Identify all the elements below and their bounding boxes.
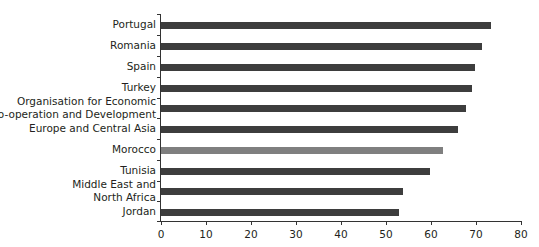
category-label-spain: Spain xyxy=(127,60,156,73)
y-tick xyxy=(157,14,161,15)
category-label-oecd-line2: Co-operation and Development xyxy=(0,108,156,121)
category-label-europe-central-asia: Europe and Central Asia xyxy=(29,122,156,135)
bar-organisation-for-economic-co-operation-and-development xyxy=(161,105,466,112)
x-tick xyxy=(521,221,522,225)
bar-jordan xyxy=(161,209,399,216)
category-label-tunisia: Tunisia xyxy=(120,164,156,177)
y-tick xyxy=(157,201,161,202)
x-tick xyxy=(386,221,387,225)
x-tick xyxy=(341,221,342,225)
x-tick xyxy=(296,221,297,225)
category-label-turkey: Turkey xyxy=(122,81,156,94)
x-tick xyxy=(431,221,432,225)
y-tick xyxy=(157,35,161,36)
x-tick xyxy=(476,221,477,225)
category-label-portugal: Portugal xyxy=(113,18,157,31)
y-tick xyxy=(157,139,161,140)
bar-europe-and-central-asia xyxy=(161,126,458,133)
bar-romania xyxy=(161,43,482,50)
x-tick xyxy=(161,221,162,225)
x-tick-label-40: 40 xyxy=(326,228,356,240)
y-tick xyxy=(157,181,161,182)
bar-middle-east-and-north-africa xyxy=(161,188,403,195)
x-tick-label-80: 80 xyxy=(506,228,536,240)
x-tick-label-30: 30 xyxy=(281,228,311,240)
category-label-mena-line1: Middle East and xyxy=(72,178,156,191)
horizontal-bar-chart: Portugal Romania Spain Turkey Organisati… xyxy=(0,0,539,247)
x-tick xyxy=(251,221,252,225)
bar-morocco xyxy=(161,147,443,154)
x-tick-label-70: 70 xyxy=(461,228,491,240)
category-label-oecd-line1: Organisation for Economic xyxy=(17,95,156,108)
x-tick-label-10: 10 xyxy=(191,228,221,240)
x-tick xyxy=(206,221,207,225)
category-label-jordan: Jordan xyxy=(123,205,156,218)
x-tick-label-50: 50 xyxy=(371,228,401,240)
category-label-morocco: Morocco xyxy=(112,143,156,156)
bar-portugal xyxy=(161,22,491,29)
x-tick-label-60: 60 xyxy=(416,228,446,240)
bar-turkey xyxy=(161,85,472,92)
category-label-mena-line2: North Africa xyxy=(93,191,156,204)
y-tick xyxy=(157,77,161,78)
bar-tunisia xyxy=(161,168,430,175)
x-tick-label-20: 20 xyxy=(236,228,266,240)
bar-spain xyxy=(161,64,475,71)
y-tick xyxy=(157,98,161,99)
y-tick xyxy=(157,160,161,161)
category-label-romania: Romania xyxy=(110,39,156,52)
y-tick xyxy=(157,118,161,119)
x-tick-label-0: 0 xyxy=(146,228,176,240)
y-tick xyxy=(157,56,161,57)
